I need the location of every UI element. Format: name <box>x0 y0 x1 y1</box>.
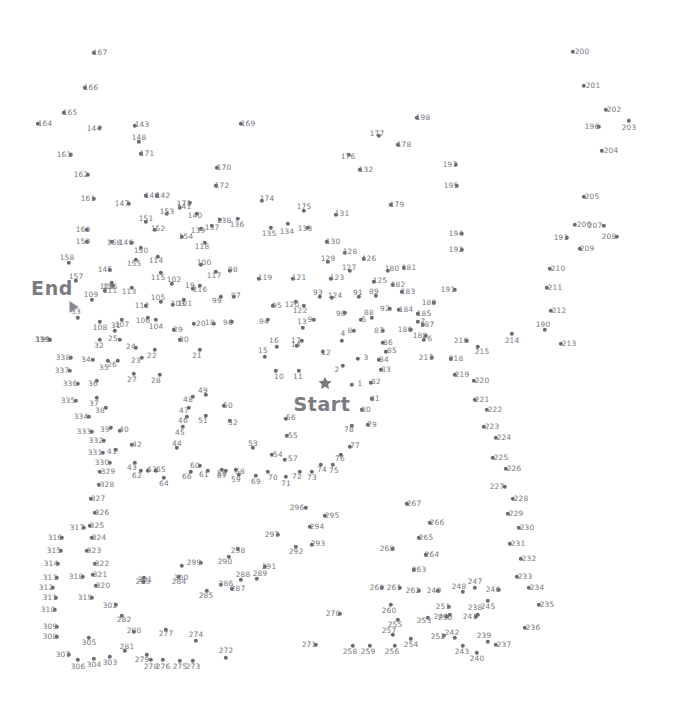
puzzle-dot-3[interactable] <box>356 357 360 361</box>
puzzle-dot-13[interactable] <box>301 326 305 330</box>
dot-label-223: 223 <box>485 423 500 430</box>
dot-label-27: 27 <box>127 376 137 383</box>
dot-label-106: 106 <box>136 317 151 324</box>
dot-label-8: 8 <box>348 327 353 334</box>
dot-label-45: 45 <box>175 429 185 436</box>
dot-label-6: 6 <box>428 335 433 342</box>
dot-label-20: 20 <box>196 320 206 327</box>
dot-label-196: 196 <box>585 123 600 130</box>
dot-label-3: 3 <box>364 354 369 361</box>
dot-label-134: 134 <box>280 228 295 235</box>
dot-label-178: 178 <box>397 141 412 148</box>
dot-label-304: 304 <box>87 661 102 668</box>
dot-label-35: 35 <box>99 364 109 371</box>
dot-label-12: 12 <box>321 349 331 356</box>
dot-label-249: 249 <box>427 587 442 594</box>
dot-label-130: 130 <box>326 238 341 245</box>
dot-label-187: 187 <box>420 321 435 328</box>
puzzle-dot-4[interactable] <box>340 339 344 343</box>
dot-label-153: 153 <box>160 208 175 215</box>
dot-label-115: 115 <box>151 274 166 281</box>
puzzle-dot-25[interactable] <box>118 338 122 342</box>
dot-label-211: 211 <box>548 284 563 291</box>
puzzle-dot-16[interactable] <box>275 345 279 349</box>
end-triangle-icon <box>70 301 79 313</box>
puzzle-dot-247[interactable] <box>473 586 477 590</box>
dot-label-338: 338 <box>56 354 71 361</box>
dot-label-89: 89 <box>369 288 379 295</box>
dot-label-326: 326 <box>95 509 110 516</box>
dot-label-321: 321 <box>93 571 108 578</box>
dot-label-240: 240 <box>470 655 485 662</box>
dot-label-266: 266 <box>430 519 445 526</box>
puzzle-dot-272[interactable] <box>224 656 228 660</box>
dot-label-236: 236 <box>526 624 541 631</box>
dot-label-60: 60 <box>190 462 200 469</box>
dot-label-200: 200 <box>575 48 590 55</box>
dot-label-132: 132 <box>359 166 374 173</box>
dot-label-87: 87 <box>374 327 384 334</box>
dot-label-67: 67 <box>217 472 227 479</box>
dot-label-208: 208 <box>602 233 617 240</box>
dot-label-149: 149 <box>145 192 160 199</box>
puzzle-dot-2[interactable] <box>341 364 345 368</box>
dot-label-55: 55 <box>288 432 298 439</box>
dot-label-15: 15 <box>258 347 268 354</box>
dot-label-24: 24 <box>126 343 136 350</box>
dot-label-305: 305 <box>82 639 97 646</box>
puzzle-dot-57[interactable] <box>283 458 287 462</box>
dot-label-161: 161 <box>81 195 96 202</box>
dot-label-289: 289 <box>253 570 268 577</box>
dot-label-61: 61 <box>199 471 209 478</box>
dot-label-154: 154 <box>179 233 194 240</box>
dot-label-232: 232 <box>522 555 537 562</box>
dot-label-242: 242 <box>445 629 460 636</box>
dot-label-1: 1 <box>358 380 363 387</box>
dot-label-147: 147 <box>115 200 130 207</box>
dot-label-49: 49 <box>198 387 208 394</box>
dot-label-72: 72 <box>292 473 302 480</box>
dot-label-44: 44 <box>172 440 182 447</box>
dot-label-333: 333 <box>77 428 92 435</box>
dot-label-59: 59 <box>231 476 241 483</box>
dot-label-327: 327 <box>91 495 106 502</box>
dot-label-48: 48 <box>183 396 193 403</box>
dot-label-135: 135 <box>262 230 277 237</box>
dot-label-312: 312 <box>39 584 54 591</box>
dot-label-280: 280 <box>127 627 142 634</box>
puzzle-dot-15[interactable] <box>263 355 267 359</box>
dot-label-57: 57 <box>288 455 298 462</box>
dot-label-81: 81 <box>370 395 380 402</box>
dot-label-264: 264 <box>425 551 440 558</box>
puzzle-dot-134[interactable] <box>286 222 290 226</box>
dot-label-325: 325 <box>90 522 105 529</box>
dot-label-176: 176 <box>341 153 356 160</box>
dot-label-282: 282 <box>117 616 132 623</box>
dot-label-83: 83 <box>381 366 391 373</box>
dot-label-2: 2 <box>335 366 340 373</box>
puzzle-dot-34[interactable] <box>91 358 95 362</box>
puzzle-dot-1[interactable] <box>350 383 354 387</box>
dot-label-278: 278 <box>144 663 159 670</box>
dot-label-21: 21 <box>192 352 202 359</box>
dot-label-109: 109 <box>84 291 99 298</box>
dot-label-214: 214 <box>505 337 520 344</box>
dot-label-308: 308 <box>43 633 58 640</box>
puzzle-dot-274[interactable] <box>194 639 198 643</box>
puzzle-dot-300[interactable] <box>180 564 184 568</box>
dot-label-92: 92 <box>380 305 390 312</box>
dot-label-150: 150 <box>134 247 149 254</box>
dot-label-291: 291 <box>262 563 277 570</box>
puzzle-dot-239[interactable] <box>486 640 490 644</box>
dot-label-263: 263 <box>412 566 427 573</box>
dot-label-104: 104 <box>149 323 164 330</box>
dot-label-16: 16 <box>269 337 279 344</box>
dot-label-296: 296 <box>290 504 305 511</box>
dot-label-277: 277 <box>159 630 174 637</box>
dot-label-204: 204 <box>604 147 619 154</box>
dot-label-39: 39 <box>100 426 110 433</box>
dot-label-164: 164 <box>38 120 53 127</box>
puzzle-dot-33[interactable] <box>76 316 80 320</box>
dot-label-302: 302 <box>103 602 118 609</box>
dot-label-148: 148 <box>132 134 147 141</box>
